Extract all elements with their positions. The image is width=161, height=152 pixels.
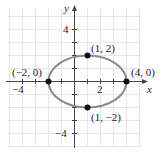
point-4-0 xyxy=(124,79,130,85)
y-tick-label-neg4: −4 xyxy=(55,127,67,139)
y-axis-label: y xyxy=(63,2,69,14)
x-tick-label-2: 2 xyxy=(97,83,103,95)
point-1-2 xyxy=(85,53,91,59)
y-tick-label-4: 4 xyxy=(63,23,69,35)
point-label-1-2: (1, 2) xyxy=(91,42,115,55)
ellipse-graph: y x −4 2 4 −4 (−2, 0) (4, 0) (1, 2) (1, … xyxy=(0,0,161,152)
point-label-neg2-0: (−2, 0) xyxy=(12,66,42,79)
x-tick-label-neg4: −4 xyxy=(12,83,24,95)
point-1-neg2 xyxy=(85,105,91,111)
point-label-4-0: (4, 0) xyxy=(131,66,155,79)
x-axis-label: x xyxy=(146,83,152,95)
point-neg2-0 xyxy=(46,79,52,85)
point-label-1-neg2: (1, −2) xyxy=(91,111,121,124)
y-axis-arrow-icon xyxy=(72,5,77,11)
